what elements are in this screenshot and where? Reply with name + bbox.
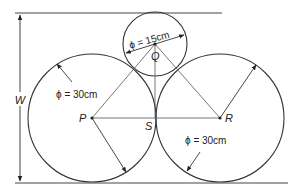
point-s-label: S	[145, 120, 153, 132]
point-q-label: Q	[151, 50, 160, 62]
right-diameter-label: ϕ = 30cm	[185, 135, 226, 146]
point-r-label: R	[225, 112, 233, 124]
left-diameter-arrow-lower	[92, 118, 126, 172]
right-diameter-arrow-upper	[220, 65, 256, 118]
point-r-dot	[218, 116, 221, 119]
width-label: W	[15, 94, 27, 106]
point-p-label: P	[79, 112, 87, 124]
right-diameter-arrow-lower	[187, 152, 200, 171]
point-p-dot	[90, 116, 93, 119]
circles-diagram: W ϕ = 15cm ϕ = 30cm ϕ = 30cm P Q R S	[0, 0, 298, 192]
small-diameter-label: ϕ = 15cm	[128, 29, 171, 51]
left-diameter-label: ϕ = 30cm	[56, 89, 97, 100]
left-diameter-arrow-upper	[57, 64, 72, 82]
